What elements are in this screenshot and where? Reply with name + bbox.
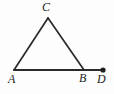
segment-AC-line	[14, 18, 48, 70]
segment-CB-line	[48, 18, 84, 70]
vertex-label-d: D	[97, 73, 106, 85]
vertex-label-c: C	[42, 1, 50, 13]
geometry-figure: A B C D	[0, 0, 114, 94]
vertex-label-a: A	[8, 73, 15, 85]
vertex-label-b: B	[79, 72, 86, 84]
